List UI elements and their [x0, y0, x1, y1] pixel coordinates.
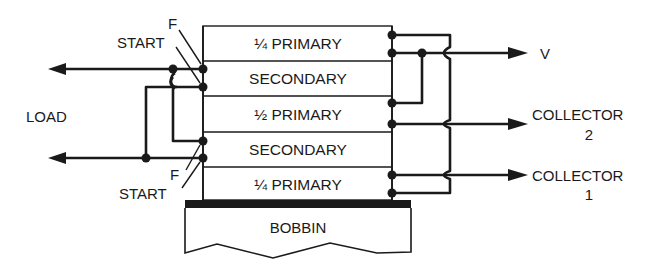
- collector2-label: COLLECTOR: [532, 106, 624, 123]
- collector1-number: 1: [585, 186, 593, 203]
- terminal-dot: [199, 137, 208, 146]
- top-start-label: START: [117, 34, 165, 51]
- bottom-start-label: START: [119, 185, 167, 202]
- v-arrow: [508, 47, 528, 59]
- terminal-dot: [388, 120, 397, 129]
- layer-secondary-top: SECONDARY: [249, 70, 347, 87]
- load-arrow-bottom: [48, 152, 66, 164]
- bobbin-label: BOBBIN: [270, 219, 327, 236]
- bobbin-flange: [185, 200, 411, 208]
- collector2-number: 2: [585, 126, 593, 143]
- load-arrow-top: [48, 63, 66, 75]
- top-finish-label: F: [168, 15, 177, 32]
- terminal-dot: [388, 171, 397, 180]
- terminal-dot: [388, 189, 397, 198]
- load-wiring: F START LOAD F START: [26, 15, 208, 202]
- collector1-arrow: [508, 169, 528, 181]
- v-label: V: [540, 45, 550, 62]
- layer-half-primary: ½ PRIMARY: [254, 106, 342, 123]
- primary-wiring: V COLLECTOR 2 COLLECTOR 1: [388, 31, 624, 204]
- layer-quarter-primary-bottom: ¼ PRIMARY: [254, 176, 342, 193]
- collector2-arrow: [508, 118, 528, 130]
- terminal-dot: [388, 49, 397, 58]
- junction-dot: [169, 65, 178, 74]
- terminal-dot: [199, 65, 208, 74]
- junction-dot: [142, 154, 151, 163]
- junction-dot: [418, 49, 427, 58]
- bottom-finish-label: F: [170, 166, 179, 183]
- terminal-dot: [199, 154, 208, 163]
- bobbin: BOBBIN: [185, 200, 411, 258]
- layer-secondary-bottom: SECONDARY: [249, 141, 347, 158]
- coil-stack: ¼ PRIMARY SECONDARY ½ PRIMARY SECONDARY …: [203, 26, 392, 200]
- winding-diagram: ¼ PRIMARY SECONDARY ½ PRIMARY SECONDARY …: [0, 0, 665, 276]
- layer-quarter-primary-top: ¼ PRIMARY: [254, 35, 342, 52]
- terminal-dot: [388, 31, 397, 40]
- terminal-dot: [388, 99, 397, 108]
- collector1-label: COLLECTOR: [532, 167, 624, 184]
- load-label: LOAD: [26, 108, 67, 125]
- terminal-dot: [199, 83, 208, 92]
